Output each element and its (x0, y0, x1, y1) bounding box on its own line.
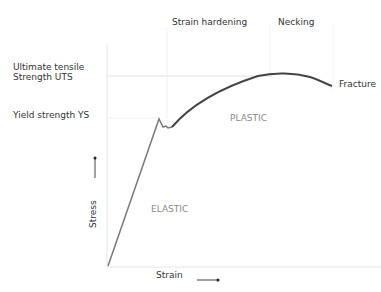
plastic-region-label: PLASTIC (230, 113, 267, 123)
strain-axis-label: Strain (156, 270, 183, 280)
stress-axis-label: Stress (88, 200, 98, 228)
elastic-region-label: ELASTIC (151, 204, 188, 214)
uts-label-line1: Ultimate tensile (13, 62, 84, 72)
fracture-label: Fracture (339, 79, 376, 89)
elastic-curve (108, 119, 172, 266)
stress-strain-diagram (0, 0, 381, 292)
strain-arrow-head (217, 279, 220, 282)
strain-hardening-label: Strain hardening (172, 17, 247, 27)
stress-arrow-head (94, 157, 97, 160)
uts-label-line2: Strength UTS (13, 72, 73, 82)
ys-label: Yield strength YS (13, 110, 89, 120)
necking-label: Necking (278, 17, 314, 27)
